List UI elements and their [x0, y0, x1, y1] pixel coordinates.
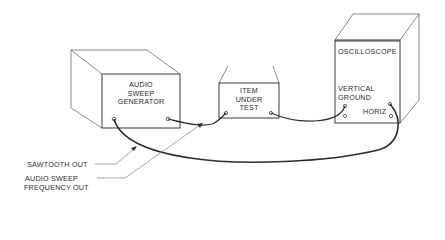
sawtooth-arrow-icon [131, 146, 137, 151]
oscilloscope-title: OSCILLOSCOPE [338, 47, 397, 56]
scope-ground-label: GROUND [338, 93, 371, 102]
generator-label: AUDIO SWEEP GENERATOR [108, 81, 174, 107]
cable-item-to-scope-vertical [271, 106, 345, 121]
audio-sweep-label-line2: FREQUENCY OUT [24, 183, 89, 192]
scope-vertical-label: VERTICAL [338, 84, 375, 93]
sawtooth-out-label: SAWTOOTH OUT [27, 160, 88, 169]
audio-sweep-label-line1: AUDIO SWEEP [25, 174, 78, 183]
item-under-test-label: ITEM UNDER TEST [222, 87, 276, 113]
generator-label-line3: GENERATOR [108, 98, 174, 107]
sawtooth-leader-line [95, 149, 134, 164]
scope-ground-jack [343, 114, 346, 117]
scope-horiz-ground-jack [389, 114, 392, 117]
freq-leader-line [97, 125, 200, 178]
scope-horiz-label: HORIZ [363, 107, 386, 116]
item-label-line3: TEST [222, 104, 276, 113]
cable-generator-to-item [168, 113, 226, 125]
